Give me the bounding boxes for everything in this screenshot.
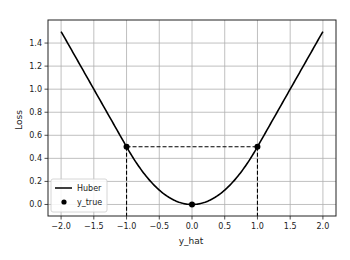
y-tick-label: 0.6 [29,131,42,140]
x-tick-label: 1.0 [251,222,264,231]
y-true-point [124,144,130,150]
x-tick-label: −1.0 [117,222,136,231]
x-axis-label: y_hat [179,236,204,246]
x-tick-label: 0.0 [186,222,199,231]
x-axis-ticks: −2.0−1.5−1.0−0.50.00.51.01.52.0 [51,216,329,231]
x-tick-label: −2.0 [51,222,70,231]
legend-dot-icon [61,199,66,204]
y-tick-label: 1.0 [29,85,42,94]
y-tick-label: 1.2 [29,62,42,71]
x-tick-label: 0.5 [218,222,231,231]
x-tick-label: −0.5 [150,222,169,231]
legend: Huber y_true [51,179,107,212]
y-tick-label: 0.4 [29,154,42,163]
y-tick-label: 1.4 [29,39,42,48]
legend-label-y-true: y_true [77,198,102,207]
y-tick-label: 0.8 [29,108,42,117]
x-tick-label: 1.5 [284,222,297,231]
y-true-point [254,144,260,150]
y-axis-ticks: 0.00.20.40.60.81.01.21.4 [29,39,48,209]
legend-label-huber: Huber [77,184,102,193]
x-tick-label: −1.5 [84,222,103,231]
y-true-point [189,201,195,207]
y-tick-label: 0.2 [29,177,42,186]
y-tick-label: 0.0 [29,200,42,209]
x-tick-label: 2.0 [317,222,330,231]
y-axis-label: Loss [14,110,24,130]
huber-loss-chart: −2.0−1.5−1.0−0.50.00.51.01.52.0 0.00.20.… [0,0,350,260]
